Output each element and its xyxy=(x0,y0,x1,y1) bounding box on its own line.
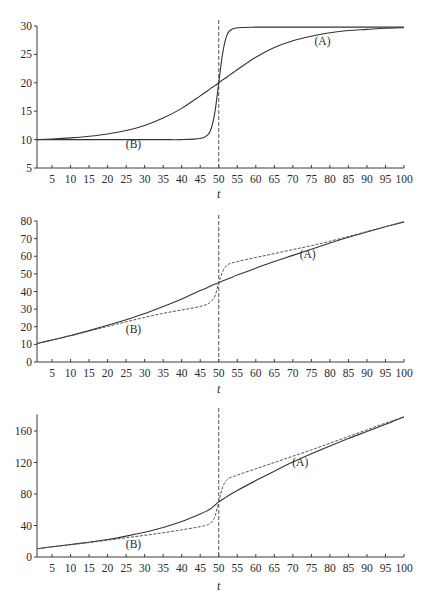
chart-bottom-growth-paths: 0408012016051015202530354045505560657075… xyxy=(15,408,413,593)
x-axis-title: t xyxy=(217,382,221,396)
x-tick-label: 40 xyxy=(176,562,188,574)
figure: 5101520253051015202530354045505560657075… xyxy=(0,0,427,599)
x-tick-label: 25 xyxy=(120,173,132,185)
x-tick-label: 35 xyxy=(157,562,169,574)
x-tick-label: 15 xyxy=(83,367,95,379)
y-tick-label: 30 xyxy=(21,303,33,315)
y-tick-label: 10 xyxy=(21,338,33,350)
x-tick-label: 70 xyxy=(287,367,299,379)
x-tick-label: 100 xyxy=(395,367,413,379)
y-tick-label: 60 xyxy=(21,250,33,262)
x-tick-label: 75 xyxy=(306,173,318,185)
y-tick-label: 50 xyxy=(21,268,33,280)
x-tick-label: 5 xyxy=(49,173,55,185)
x-tick-label: 85 xyxy=(343,173,355,185)
annotation-b: (B) xyxy=(126,323,142,336)
x-tick-label: 70 xyxy=(287,173,299,185)
x-tick-label: 60 xyxy=(250,367,262,379)
x-axis-title: t xyxy=(217,579,221,593)
x-tick-label: 75 xyxy=(306,562,318,574)
x-tick-label: 35 xyxy=(157,173,169,185)
x-tick-label: 90 xyxy=(361,367,373,379)
x-tick-label: 55 xyxy=(232,173,244,185)
x-tick-label: 40 xyxy=(176,367,188,379)
x-tick-label: 5 xyxy=(49,562,55,574)
x-tick-label: 85 xyxy=(343,367,355,379)
y-tick-label: 20 xyxy=(21,77,33,89)
x-tick-label: 45 xyxy=(194,562,206,574)
series-line-solid xyxy=(37,222,404,344)
y-tick-label: 20 xyxy=(21,321,33,333)
annotation-a: (A) xyxy=(300,248,316,261)
annotation-b: (B) xyxy=(126,538,142,551)
x-tick-label: 65 xyxy=(269,173,281,185)
y-tick-label: 70 xyxy=(21,233,33,245)
x-tick-label: 35 xyxy=(157,367,169,379)
x-tick-label: 45 xyxy=(194,173,206,185)
series-line-dashed xyxy=(37,417,404,549)
x-tick-label: 5 xyxy=(49,367,55,379)
x-tick-label: 60 xyxy=(250,562,262,574)
x-tick-label: 40 xyxy=(176,173,188,185)
x-tick-label: 95 xyxy=(380,173,392,185)
y-tick-label: 80 xyxy=(21,488,33,500)
x-axis-title: t xyxy=(217,187,221,201)
x-tick-label: 80 xyxy=(324,367,336,379)
chart-top-ab-transition: 5101520253051015202530354045505560657075… xyxy=(21,20,413,201)
series-line-dashed xyxy=(37,222,404,344)
x-tick-label: 65 xyxy=(269,562,281,574)
series-line-a xyxy=(37,28,404,140)
x-tick-label: 20 xyxy=(102,367,114,379)
y-tick-label: 0 xyxy=(26,551,32,563)
x-tick-label: 70 xyxy=(287,562,299,574)
x-tick-label: 10 xyxy=(65,173,77,185)
x-tick-label: 80 xyxy=(324,173,336,185)
x-tick-label: 75 xyxy=(306,367,318,379)
x-tick-label: 65 xyxy=(269,367,281,379)
x-tick-label: 80 xyxy=(324,562,336,574)
y-tick-label: 40 xyxy=(21,520,33,532)
x-tick-label: 30 xyxy=(139,367,151,379)
x-tick-label: 10 xyxy=(65,367,77,379)
x-tick-label: 30 xyxy=(139,173,151,185)
y-tick-label: 10 xyxy=(21,134,33,146)
x-tick-label: 50 xyxy=(213,173,225,185)
x-tick-label: 90 xyxy=(361,173,373,185)
x-tick-label: 55 xyxy=(232,562,244,574)
annotation-a: (A) xyxy=(315,35,331,48)
x-tick-label: 100 xyxy=(395,562,413,574)
x-tick-label: 60 xyxy=(250,173,262,185)
y-tick-label: 0 xyxy=(26,356,32,368)
x-tick-label: 50 xyxy=(213,367,225,379)
series-line-b xyxy=(37,27,404,140)
x-tick-label: 30 xyxy=(139,562,151,574)
x-tick-label: 15 xyxy=(83,173,95,185)
annotation-a: (A) xyxy=(292,456,308,469)
y-tick-label: 160 xyxy=(15,425,33,437)
x-tick-label: 25 xyxy=(120,562,132,574)
y-tick-label: 30 xyxy=(21,20,33,32)
x-tick-label: 50 xyxy=(213,562,225,574)
x-tick-label: 55 xyxy=(232,367,244,379)
x-tick-label: 45 xyxy=(194,367,206,379)
x-tick-label: 10 xyxy=(65,562,77,574)
y-tick-label: 5 xyxy=(26,162,32,174)
y-tick-label: 15 xyxy=(21,105,33,117)
x-tick-label: 15 xyxy=(83,562,95,574)
y-tick-label: 120 xyxy=(15,457,33,469)
chart-middle-growth-paths: 0102030405060708051015202530354045505560… xyxy=(21,215,413,396)
y-tick-label: 25 xyxy=(21,48,33,60)
x-tick-label: 20 xyxy=(102,562,114,574)
y-tick-label: 80 xyxy=(21,215,33,227)
annotation-b: (B) xyxy=(126,138,142,151)
x-tick-label: 85 xyxy=(343,562,355,574)
x-tick-label: 25 xyxy=(120,367,132,379)
x-tick-label: 95 xyxy=(380,367,392,379)
x-tick-label: 100 xyxy=(395,173,413,185)
x-tick-label: 95 xyxy=(380,562,392,574)
x-tick-label: 20 xyxy=(102,173,114,185)
y-tick-label: 40 xyxy=(21,286,33,298)
x-tick-label: 90 xyxy=(361,562,373,574)
